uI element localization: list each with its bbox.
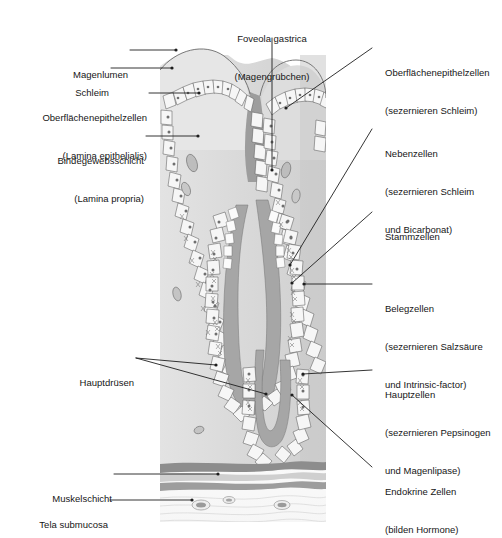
label-oberflaechenepithelzellen-sezernieren-schleim-line1: Oberflächenepithelzellen <box>385 67 502 80</box>
label-belegzellen-line2: (sezernieren Salzsäure <box>385 341 502 354</box>
label-foveola-gastrica: Foveola gastrica (Magengrübchen) <box>202 8 342 109</box>
label-hauptdruesen: Hauptdrüsen <box>0 352 134 415</box>
label-bindegewebsschicht-line1: Bindegewebsschicht <box>0 155 144 168</box>
label-stammzellen-line1: Stammzellen <box>385 231 502 244</box>
label-stammzellen: Stammzellen <box>385 206 502 269</box>
label-hauptzellen-line1: Hauptzellen <box>385 389 502 402</box>
muscularis-mucosae-layer <box>160 461 326 491</box>
label-endokrine-zellen-line2: (bilden Hormone) <box>385 524 502 537</box>
label-nebenzellen-line2: (sezernieren Schleim <box>385 186 502 199</box>
figure-canvas: Foveola gastrica (Magengrübchen) Magenlu… <box>0 0 502 538</box>
label-belegzellen-line1: Belegzellen <box>385 303 502 316</box>
label-bindegewebsschicht: Bindegewebsschicht (Lamina propria) <box>0 130 144 231</box>
label-hauptdruesen-line1: Hauptdrüsen <box>0 377 134 390</box>
label-endokrine-zellen-line1: Endokrine Zellen <box>385 486 502 499</box>
label-bindegewebsschicht-line2: (Lamina propria) <box>0 193 144 206</box>
label-hauptzellen-line2: (sezernieren Pepsinogen <box>385 427 502 440</box>
label-oberflaechenepithelzellen-lamina-epithelialis-line1: Oberflächenepithelzellen <box>0 112 147 125</box>
label-endokrine-zellen: Endokrine Zellen (bilden Hormone) <box>385 461 502 538</box>
label-nebenzellen-line1: Nebenzellen <box>385 148 502 161</box>
label-tela-submucosa-line1: Tela submucosa <box>0 519 108 532</box>
label-tela-submucosa: Tela submucosa <box>0 494 108 538</box>
label-foveola-gastrica-line1: Foveola gastrica <box>202 33 342 46</box>
label-foveola-gastrica-line2: (Magengrübchen) <box>202 71 342 84</box>
label-oberflaechenepithelzellen-sezernieren-schleim-line2: (sezernieren Schleim) <box>385 105 502 118</box>
